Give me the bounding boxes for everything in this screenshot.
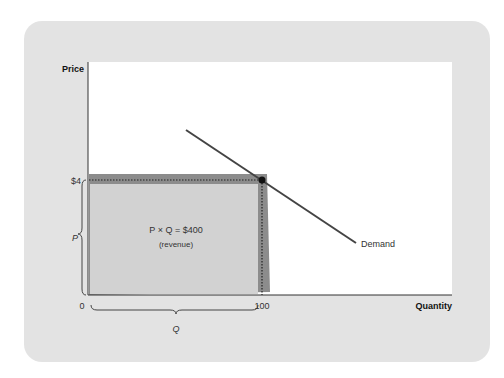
price-brace-label: P: [72, 233, 78, 243]
demand-label: Demand: [361, 239, 395, 249]
revenue-equation: P × Q = $400: [149, 225, 202, 235]
revenue-sublabel: (revenue): [159, 240, 194, 249]
quantity-brace-label: Q: [172, 324, 179, 334]
x-tick-100: 100: [254, 301, 269, 311]
equilibrium-point: [259, 177, 266, 184]
revenue-area: [90, 184, 258, 294]
y-tick-4: $4: [71, 176, 81, 186]
quantity-brace: [91, 305, 258, 314]
y-axis-label: Price: [62, 64, 84, 74]
price-brace: [78, 180, 86, 295]
x-axis-label: Quantity: [415, 301, 452, 311]
x-tick-0: 0: [79, 301, 84, 311]
revenue-chart: Price Quantity $4 0 100 P Q P × Q = $400…: [0, 0, 504, 378]
